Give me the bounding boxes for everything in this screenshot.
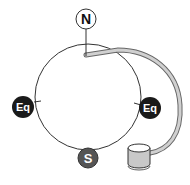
canister-icon [128, 144, 150, 170]
equator-right-label: Eq [143, 102, 157, 114]
south-marker: S [78, 148, 98, 168]
north-label: N [81, 11, 91, 27]
pole-diagram: N Eq Eq S [0, 0, 190, 185]
north-marker: N [76, 9, 96, 29]
tube [86, 50, 180, 153]
south-label: S [84, 151, 93, 166]
equator-right-marker: Eq [139, 97, 161, 119]
equator-left-label: Eq [16, 101, 30, 113]
globe-circle [35, 44, 141, 150]
tube-inner [86, 50, 180, 153]
equator-left-marker: Eq [12, 96, 34, 118]
